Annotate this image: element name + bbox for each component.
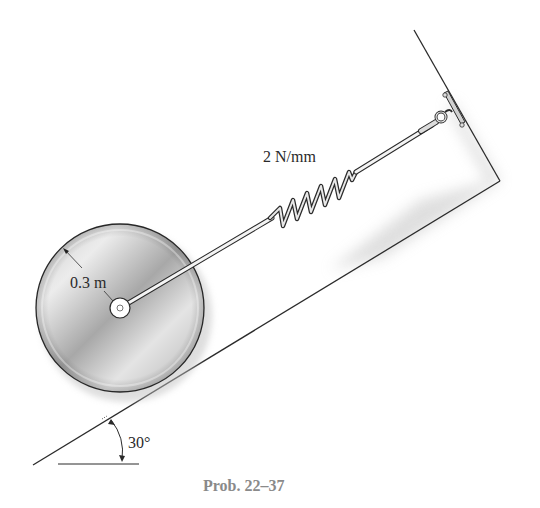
angle-arc	[102, 416, 125, 462]
wall-bracket	[443, 91, 465, 127]
diagram-canvas: 30° 0.3 m 2 N/mm	[0, 0, 540, 508]
figure-caption: Prob. 22–37	[203, 477, 284, 494]
radius-label: 0.3 m	[70, 274, 107, 291]
spring	[270, 172, 356, 226]
rod-upper	[356, 122, 436, 172]
spring-stiffness-label: 2 N/mm	[263, 148, 316, 165]
wall-line	[414, 30, 500, 181]
angle-label: 30°	[128, 434, 150, 451]
wall-shadow	[330, 100, 500, 270]
disk-hub	[110, 298, 130, 318]
